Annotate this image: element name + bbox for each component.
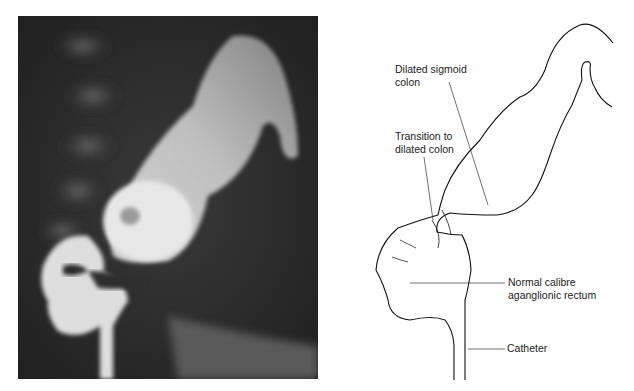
radiograph-panel	[18, 16, 318, 379]
leader-transition	[424, 157, 433, 220]
label-transition: Transition to dilated colon	[395, 130, 454, 156]
radiograph-image	[18, 16, 318, 379]
label-dilated-sigmoid: Dilated sigmoid colon	[395, 63, 467, 89]
leader-dilated-sigmoid	[449, 82, 488, 205]
label-rectum: Normal calibre aganglionic rectum	[508, 276, 596, 302]
label-catheter: Catheter	[507, 342, 547, 355]
line-drawing-panel: Dilated sigmoid colon Transition to dila…	[340, 0, 634, 391]
colon-outline-drawing	[340, 0, 634, 391]
